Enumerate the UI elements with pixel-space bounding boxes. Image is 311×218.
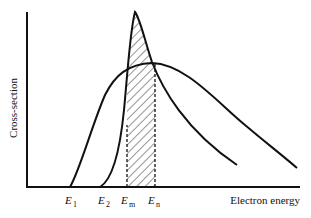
tick-label-e1: E 1 — [64, 194, 77, 209]
svg-text:n: n — [156, 200, 160, 209]
y-axis-label: Cross-section — [7, 78, 19, 138]
tick-label-en: E n — [147, 194, 160, 209]
cross-section-diagram: Cross-section Electron energy E 1 E 2 E … — [0, 0, 311, 218]
svg-text:m: m — [129, 200, 136, 209]
tick-label-e2: E 2 — [97, 194, 110, 209]
tick-label-em: E m — [120, 194, 136, 209]
diagram-canvas: Cross-section Electron energy E 1 E 2 E … — [0, 0, 311, 218]
svg-text:E: E — [97, 194, 105, 206]
svg-text:1: 1 — [73, 200, 77, 209]
svg-text:2: 2 — [106, 200, 110, 209]
svg-text:E: E — [64, 194, 72, 206]
svg-text:E: E — [147, 194, 155, 206]
x-axis-label: Electron energy — [230, 194, 300, 206]
broad-curve — [70, 63, 297, 187]
svg-text:E: E — [120, 194, 128, 206]
